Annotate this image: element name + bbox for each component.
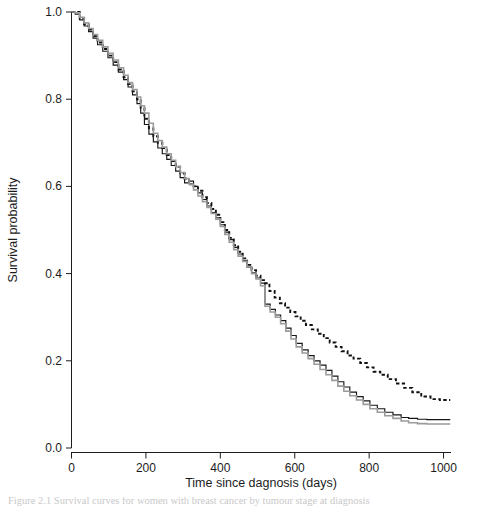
y-axis-ticks — [66, 12, 72, 448]
y-tick-label: 0.6 — [45, 179, 62, 193]
survival-curve-gray-curve — [72, 12, 451, 424]
series-layer — [72, 12, 451, 424]
y-axis-tick-labels: 0.00.20.40.60.81.0 — [45, 5, 62, 455]
y-axis-title: Survival probability — [6, 177, 20, 283]
x-tick-label: 400 — [210, 461, 230, 475]
x-tick-label: 800 — [359, 461, 379, 475]
y-tick-label: 0.2 — [45, 354, 62, 368]
figure-container: 0.00.20.40.60.81.0 02004006008001000 Tim… — [0, 0, 481, 510]
y-tick-label: 0.8 — [45, 92, 62, 106]
survival-curve-solid-black-curve — [72, 12, 451, 420]
y-tick-label: 0.4 — [45, 267, 62, 281]
survival-plot: 0.00.20.40.60.81.0 02004006008001000 Tim… — [0, 0, 481, 510]
x-tick-label: 600 — [285, 461, 305, 475]
survival-curve-dashed-curve — [72, 12, 451, 400]
x-tick-label: 1000 — [430, 461, 457, 475]
figure-caption-clip: Figure 2.1 Survival curves for women wit… — [0, 497, 481, 510]
figure-caption: Figure 2.1 Survival curves for women wit… — [8, 497, 478, 507]
y-tick-label: 0.0 — [45, 441, 62, 455]
y-tick-label: 1.0 — [45, 5, 62, 19]
x-axis-tick-labels: 02004006008001000 — [68, 461, 457, 475]
x-tick-label: 0 — [68, 461, 75, 475]
x-axis-title: Time since dagnosis (days) — [185, 476, 337, 490]
x-tick-label: 200 — [136, 461, 156, 475]
x-axis-ticks — [72, 453, 444, 459]
